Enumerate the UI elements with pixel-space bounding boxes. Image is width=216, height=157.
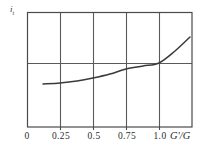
x-tick-label-0.75: 0.75 <box>118 131 136 142</box>
x-tick-label-0.5: 0.5 <box>87 131 100 142</box>
y-axis-label: it <box>10 5 14 18</box>
x-tick-label-0: 0 <box>24 131 29 142</box>
x-tick-label-1.0: 1.0 <box>153 131 166 142</box>
chart-figure: it 0 0.25 0.5 0.75 1.0 G'/G <box>0 0 216 157</box>
x-axis-title: G'/G <box>170 130 190 142</box>
plot-background <box>27 12 192 127</box>
y-axis-label-subscript: t <box>13 10 15 16</box>
x-tick-label-0.25: 0.25 <box>52 131 70 142</box>
